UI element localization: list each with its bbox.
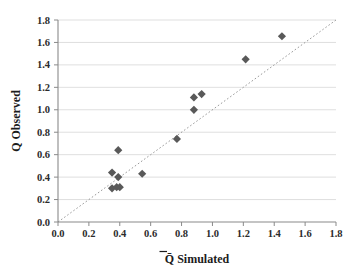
y-tick-label-0.4: 0.4 bbox=[37, 172, 51, 183]
y-tick-label-1.0: 1.0 bbox=[37, 104, 50, 115]
data-point-marker bbox=[108, 169, 116, 177]
plot-canvas: 0.00.20.40.60.81.01.21.41.61.8 0.00.20.4… bbox=[0, 0, 356, 274]
x-tick-label-1.2: 1.2 bbox=[237, 228, 250, 239]
x-tick-label-0.0: 0.0 bbox=[51, 228, 64, 239]
scatter-chart: 0.00.20.40.60.81.01.21.41.61.8 0.00.20.4… bbox=[0, 0, 356, 274]
data-point-marker bbox=[278, 32, 286, 40]
reference-line-1to1 bbox=[58, 20, 336, 222]
y-tick-label-0.8: 0.8 bbox=[37, 127, 50, 138]
x-tick-label-1.8: 1.8 bbox=[329, 228, 342, 239]
x-tick-label-0.4: 0.4 bbox=[113, 228, 127, 239]
data-point-marker bbox=[242, 55, 250, 63]
data-point-marker bbox=[198, 90, 206, 98]
x-tick-label-0.8: 0.8 bbox=[175, 228, 188, 239]
y-tick-label-0.2: 0.2 bbox=[37, 194, 50, 205]
data-point-marker bbox=[190, 93, 198, 101]
y-tick-label-1.8: 1.8 bbox=[37, 15, 50, 26]
data-point-marker bbox=[138, 170, 146, 178]
x-tick-label-1.0: 1.0 bbox=[206, 228, 219, 239]
data-markers-group bbox=[108, 32, 286, 192]
y-tick-label-0.0: 0.0 bbox=[37, 217, 50, 228]
y-tick-label-1.6: 1.6 bbox=[37, 37, 50, 48]
y-tick-label-1.4: 1.4 bbox=[37, 59, 51, 70]
x-tick-label-0.2: 0.2 bbox=[82, 228, 95, 239]
reference-line-group bbox=[58, 20, 336, 222]
y-tick-label-1.2: 1.2 bbox=[37, 82, 50, 93]
y-tick-group: 0.00.20.40.60.81.01.21.41.61.8 bbox=[37, 15, 58, 228]
x-tick-label-0.6: 0.6 bbox=[144, 228, 157, 239]
y-tick-label-0.6: 0.6 bbox=[37, 149, 50, 160]
data-point-marker bbox=[173, 135, 181, 143]
data-point-marker bbox=[114, 173, 122, 181]
data-point-marker bbox=[190, 106, 198, 114]
x-axis-title: Q̄ Simulated bbox=[165, 252, 230, 266]
x-tick-label-1.6: 1.6 bbox=[299, 228, 312, 239]
x-tick-group: 0.00.20.40.60.81.01.21.41.61.8 bbox=[51, 222, 342, 239]
y-axis-title: Q Observed bbox=[9, 90, 23, 152]
data-point-marker bbox=[114, 146, 122, 154]
x-tick-label-1.4: 1.4 bbox=[268, 228, 282, 239]
